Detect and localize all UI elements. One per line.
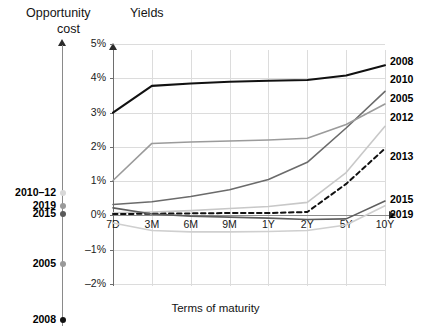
x-axis-tick-label: 5Y (340, 218, 353, 230)
opportunity-marker-dot-0 (60, 190, 66, 196)
series-label-2010: 2010 (390, 73, 413, 85)
gridline-horizontal (113, 147, 385, 148)
series-line-2005 (113, 104, 385, 180)
series-line-2008 (113, 65, 385, 112)
y-axis-tick-label: 3% (76, 106, 106, 118)
gridline-vertical (346, 50, 347, 286)
opportunity-marker-dot-4 (60, 317, 66, 323)
y-axis-tick (110, 147, 114, 148)
gridline-horizontal (113, 181, 385, 182)
y-axis-tick (110, 113, 114, 114)
x-axis-tick-label: 9M (222, 218, 237, 230)
opportunity-cost-title-line2: cost (57, 22, 80, 36)
opportunity-cost-axis (62, 45, 63, 326)
x-axis-title: Terms of maturity (0, 302, 431, 314)
gridline-horizontal (113, 78, 385, 79)
gridline-vertical (307, 50, 308, 286)
y-axis-tick (110, 250, 114, 251)
y-axis-tick (110, 78, 114, 79)
y-axis-tick (110, 215, 114, 216)
series-label-2015: 2015 (390, 193, 413, 205)
y-axis-tick-label: 0% (76, 208, 106, 220)
gridline-vertical (268, 50, 269, 286)
gridline-vertical (191, 50, 192, 286)
gridline-horizontal (113, 113, 385, 114)
y-axis-tick-label: –2% (76, 277, 106, 289)
gridline-horizontal (113, 284, 385, 285)
series-line-2019 (113, 201, 385, 220)
series-label-2012: 2012 (390, 111, 413, 123)
gridline-vertical (230, 50, 231, 286)
opportunity-cost-title-line1: Opportunity (26, 6, 91, 20)
x-axis-tick-label: 6M (183, 218, 198, 230)
opportunity-marker-label-2005: 2005 (0, 257, 56, 269)
x-axis-tick-label: 2Y (301, 218, 314, 230)
zero-baseline (113, 215, 389, 216)
x-axis-tick-label: 1Y (262, 218, 275, 230)
yields-title: Yields (130, 6, 164, 20)
y-axis-tick (110, 44, 114, 45)
y-axis-tick (110, 181, 114, 182)
chart-root: Opportunity cost Yields 2010–12201920152… (0, 0, 431, 335)
opportunity-marker-label-2008: 2008 (0, 313, 56, 325)
series-line-2012 (113, 126, 385, 212)
x-axis-tick-label: 7D (106, 218, 119, 230)
series-label-2019: 2019 (390, 208, 413, 220)
series-label-2005: 2005 (390, 92, 413, 104)
opportunity-marker-dot-3 (60, 261, 66, 267)
gridline-vertical (385, 50, 386, 286)
y-axis-tick (110, 284, 114, 285)
y-axis-tick-label: 4% (76, 71, 106, 83)
x-axis-tick-label: 3M (145, 218, 160, 230)
y-axis-tick-label: –1% (76, 243, 106, 255)
y-axis-tick-label: 2% (76, 140, 106, 152)
gridline-horizontal (113, 44, 385, 45)
gridline-horizontal (113, 250, 385, 251)
opportunity-marker-dot-2 (60, 211, 66, 217)
opportunity-marker-dot-1 (60, 203, 66, 209)
x-axis-tick-label: 10Y (376, 218, 395, 230)
series-label-2013: 2013 (390, 150, 413, 162)
series-label-2008: 2008 (390, 55, 413, 67)
y-axis-tick-label: 5% (76, 37, 106, 49)
y-axis-tick-label: 1% (76, 174, 106, 186)
opportunity-marker-label-2010–12: 2010–12 (0, 186, 56, 198)
opportunity-marker-label-2015: 2015 (0, 207, 56, 219)
series-line-2010 (113, 91, 385, 204)
gridline-vertical (152, 50, 153, 286)
